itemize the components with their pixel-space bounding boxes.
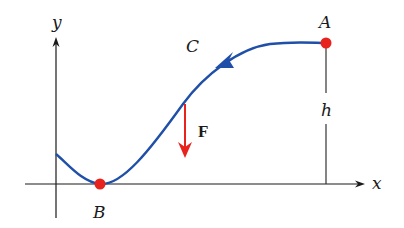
height-label: h <box>321 100 332 120</box>
point-a-label: A <box>317 12 331 32</box>
point-a <box>321 38 332 49</box>
force-label: F <box>198 122 208 141</box>
point-b <box>95 179 106 190</box>
curve-label: C <box>186 36 199 56</box>
x-axis <box>25 181 365 188</box>
y-axis <box>53 37 60 218</box>
diagram-canvas: y x h C F A B <box>0 0 404 228</box>
y-axis-label: y <box>51 12 62 32</box>
point-b-label: B <box>92 202 106 222</box>
curve-c <box>56 42 326 184</box>
force-arrow <box>178 104 192 158</box>
x-axis-label: x <box>372 173 382 193</box>
